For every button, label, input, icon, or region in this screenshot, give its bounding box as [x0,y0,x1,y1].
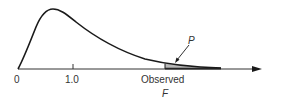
p-label: P [188,36,195,46]
tick-label-0: 0 [14,75,20,85]
f-distribution-diagram: 0 1.0 Observed F P [0,0,284,102]
tick-label-1-0: 1.0 [65,75,79,85]
diagram-canvas [0,0,284,102]
f-symbol-label: F [162,89,168,99]
axis-arrowhead-icon [252,66,262,72]
p-pointer-line [177,45,189,60]
observed-label: Observed [141,75,184,85]
